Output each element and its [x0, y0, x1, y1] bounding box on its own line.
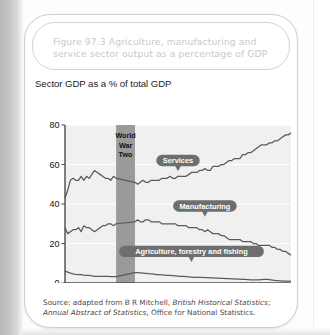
y-tick-label: 0 [54, 278, 59, 283]
source-separator: ; [268, 298, 270, 307]
source-italic-title-1: British Historical Statistics [172, 298, 268, 307]
y-tick-label: 80 [49, 120, 59, 130]
war-band-label-line: War [119, 141, 133, 150]
y-tick-label: 20 [49, 239, 59, 249]
war-band-label-line: World [115, 131, 135, 140]
figure-title: Figure 97.3 Agriculture, manufacturing a… [53, 36, 285, 59]
page-right-margin [313, 0, 330, 335]
figure-title-pill: Figure 97.3 Agriculture, manufacturing a… [32, 22, 290, 70]
war-band-label-line: Two [119, 150, 133, 159]
callout-label: Agriculture, forestry and fishing [135, 247, 248, 256]
source-suffix: , Office for National Statistics. [146, 308, 255, 317]
page-gutter-shadow [0, 0, 22, 335]
figure-source: Source: adapted from B R Mitchell, Briti… [43, 298, 283, 318]
callout-label: Services [163, 156, 193, 165]
page-bottom-edge [22, 327, 330, 335]
y-tick-label: 40 [49, 199, 59, 209]
source-italic-title-2: Annual Abstract of Statistics [43, 308, 146, 317]
y-tick-label: 60 [49, 160, 59, 170]
figure-card: Figure 97.3 Agriculture, manufacturing a… [24, 14, 298, 328]
callout-label: Manufacturing [179, 202, 230, 211]
line-chart: WorldWarTwo02040608019202530354045505560… [25, 93, 297, 283]
source-prefix: Source: adapted from B R Mitchell, [43, 298, 172, 307]
chart-plot-area: WorldWarTwo02040608019202530354045505560… [25, 93, 297, 283]
chart-subtitle: Sector GDP as a % of total GDP [35, 78, 171, 89]
